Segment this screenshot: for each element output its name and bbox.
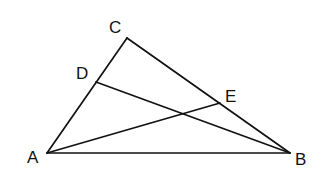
label-E: E bbox=[225, 87, 236, 106]
label-C: C bbox=[109, 18, 121, 37]
segments bbox=[47, 38, 290, 153]
label-B: B bbox=[295, 150, 306, 169]
segment-AE bbox=[47, 103, 220, 153]
label-D: D bbox=[76, 64, 88, 83]
segment-AC bbox=[47, 38, 127, 153]
label-A: A bbox=[27, 148, 39, 167]
triangle-diagram: A B C D E bbox=[0, 0, 324, 173]
segment-DB bbox=[96, 82, 290, 153]
segment-CB bbox=[127, 38, 290, 153]
